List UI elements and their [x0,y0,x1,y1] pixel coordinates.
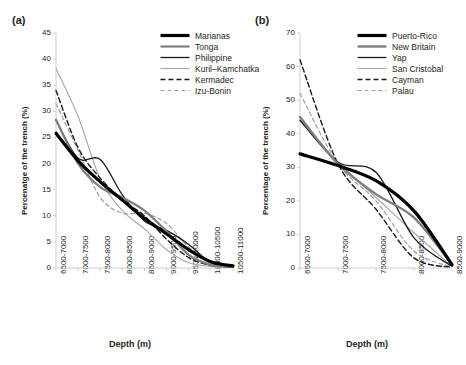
legend-item: Philippine [160,52,259,63]
legend-item: Marianas [160,30,259,41]
legend-line-swatch [357,52,387,63]
legend-line-swatch [357,30,387,41]
legend-label: Yap [392,53,407,63]
legend-item: Yap [357,52,443,63]
panel-a: (a) Percenatge of the trench (%) 0510152… [0,0,247,365]
legend-item: Izu-Bonin [160,85,259,96]
legend-label: Palau [392,86,414,96]
panel-a-x-axis-label: Depth (m) [55,339,205,349]
legend-item: Palau [357,85,443,96]
series-line [56,120,233,267]
series-line [56,120,233,267]
legend-label: Marianas [195,31,230,41]
legend-line-swatch [160,30,190,41]
legend-item: Puerto-Rico [357,30,443,41]
legend-label: New Britain [392,42,435,52]
panel-b-legend: Puerto-RicoNew BritainYapSan CristobalCa… [357,30,443,96]
legend-label: Cayman [392,75,424,85]
series-line [56,133,233,266]
legend-line-swatch [160,85,190,96]
legend-item: Tonga [160,41,259,52]
legend-label: Kermadec [195,75,234,85]
legend-item: San Cristobal [357,63,443,74]
legend-item: Kuril–Kamchatka [160,63,259,74]
legend-item: Cayman [357,74,443,85]
legend-item: Kermadec [160,74,259,85]
legend-label: Izu-Bonin [195,86,231,96]
figure-container: (a) Percenatge of the trench (%) 0510152… [0,0,466,365]
legend-label: Puerto-Rico [392,31,437,41]
legend-label: Tonga [195,42,218,52]
panel-a-legend: MarianasTongaPhilippineKuril–KamchatkaKe… [160,30,259,96]
legend-line-swatch [357,74,387,85]
legend-line-swatch [160,63,190,74]
legend-item: New Britain [357,41,443,52]
panel-b: (b) Percentage of the trench (%) 0102030… [247,0,466,365]
panel-b-x-axis-label: Depth (m) [302,339,432,349]
legend-line-swatch [160,41,190,52]
legend-line-swatch [357,63,387,74]
legend-label: San Cristobal [392,64,443,74]
legend-line-swatch [160,74,190,85]
legend-line-swatch [160,52,190,63]
legend-line-swatch [357,85,387,96]
series-line [56,90,233,267]
legend-line-swatch [357,41,387,52]
legend-label: Philippine [195,53,232,63]
